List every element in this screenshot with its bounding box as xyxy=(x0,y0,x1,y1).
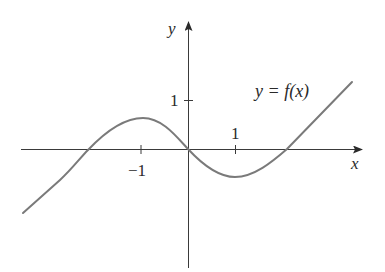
tick-label-x-neg1: −1 xyxy=(128,161,146,180)
function-curve xyxy=(23,82,352,213)
x-axis-label: x xyxy=(350,154,359,173)
function-graph: y x −1 1 1 y = f(x) xyxy=(0,0,385,272)
tick-label-x-1: 1 xyxy=(231,124,240,143)
y-axis-label: y xyxy=(166,19,176,38)
tick-label-y-1: 1 xyxy=(170,91,179,110)
curve-label: y = f(x) xyxy=(253,81,309,102)
